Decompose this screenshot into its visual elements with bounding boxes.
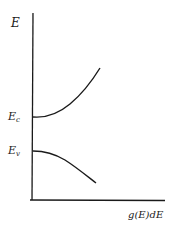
diagram-canvas (0, 0, 178, 227)
ec-subscript: c (16, 116, 20, 124)
y-axis (32, 13, 33, 200)
x-axis (30, 200, 165, 201)
x-axis-label: g(E)dE (128, 210, 163, 220)
conduction-band-curve (33, 68, 100, 117)
valence-band-edge-label: Ev (8, 145, 20, 158)
valence-band-curve (33, 151, 96, 183)
ev-symbol: E (8, 144, 16, 157)
y-axis-label: E (11, 17, 20, 29)
density-of-states-diagram: E Ec Ev g(E)dE (0, 0, 178, 227)
ec-symbol: E (8, 110, 16, 123)
conduction-band-edge-label: Ec (8, 111, 20, 124)
ev-subscript: v (16, 150, 20, 158)
